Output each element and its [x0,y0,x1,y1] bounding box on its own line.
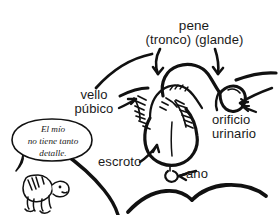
cartoon-creature [23,175,69,213]
pubic-hair-left [134,96,150,129]
label-escroto: escroto [98,155,141,169]
label-tronco-glande: (tronco) (glande) [132,33,257,47]
speech-bubble-line2: no tiene tanto [15,136,91,148]
label-vello-line2: púbico [58,102,130,116]
label-orificio-line1: orificio [212,113,280,127]
corona-line [216,92,219,110]
right-groin-contour [236,73,276,80]
pointer-tronco [153,49,163,74]
buttock-contour-right [192,185,266,200]
pubic-hair-mid [160,98,193,128]
label-ano: ano [186,167,208,181]
speech-bubble-line3: detalle. [15,148,91,160]
speech-bubble-line1: El mío [15,124,91,136]
buttock-contour-left [128,191,192,212]
pointer-glande [213,49,223,74]
vello-upper-curve [96,54,152,88]
label-vello-publico: vello púbico [58,88,130,116]
diagram-canvas: pene (tronco) (glande) vello púbico orif… [0,0,280,215]
label-vello-line1: vello [58,88,130,102]
speech-bubble-text: El mío no tiene tanto detalle. [15,124,91,159]
scrotal-raphe [171,122,172,156]
label-orificio-urinario: orificio urinario [212,113,280,141]
label-orificio-line2: urinario [212,127,280,141]
anus-outline [165,171,178,182]
glans-detail [228,89,240,93]
